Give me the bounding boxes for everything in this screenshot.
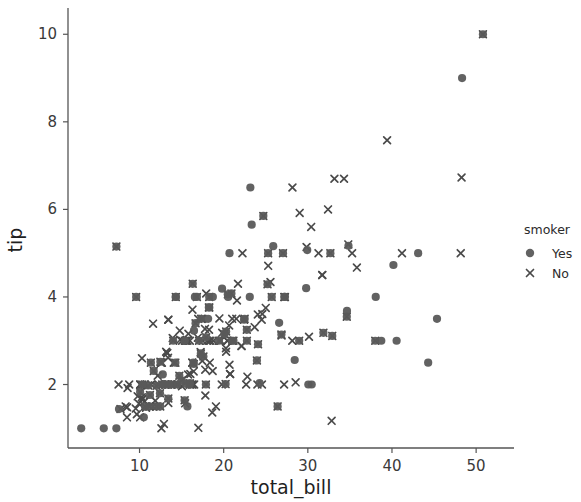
- data-point-no: [251, 324, 258, 331]
- data-point-yes: [189, 280, 197, 288]
- data-point-yes: [204, 315, 212, 323]
- data-point-yes: [291, 356, 299, 364]
- legend: smoker Yes No: [524, 222, 572, 281]
- data-point-yes: [243, 326, 251, 334]
- data-point-yes: [220, 330, 228, 338]
- legend-label-no: No: [552, 266, 569, 281]
- y-axis-title: tip: [4, 228, 26, 253]
- data-point-yes: [372, 293, 380, 301]
- data-point-yes: [240, 316, 248, 324]
- data-point-yes: [479, 30, 487, 38]
- figure-canvas: 1020304050 246810 total_bill tip smoker …: [0, 0, 581, 502]
- data-point-no: [139, 355, 146, 362]
- series-no-markers: [113, 31, 486, 432]
- data-point-yes: [146, 391, 154, 399]
- data-point-no: [399, 250, 406, 257]
- data-point-yes: [377, 337, 385, 345]
- data-point-no: [233, 315, 240, 322]
- data-point-yes: [344, 242, 352, 250]
- data-point-yes: [156, 358, 164, 366]
- data-point-yes: [182, 380, 190, 388]
- data-point-no: [306, 333, 313, 340]
- data-point-yes: [228, 337, 236, 345]
- data-point-yes: [140, 413, 148, 421]
- data-point-yes: [225, 249, 233, 257]
- data-point-yes: [189, 359, 197, 367]
- data-point-yes: [190, 327, 198, 335]
- data-point-no: [325, 206, 332, 213]
- data-point-no: [176, 327, 183, 334]
- data-point-no: [292, 379, 299, 386]
- axis-spines: [68, 8, 514, 448]
- data-point-yes: [304, 380, 312, 388]
- data-point-no: [202, 366, 209, 373]
- data-point-yes: [202, 333, 210, 341]
- data-point-yes: [202, 380, 210, 388]
- data-point-yes: [112, 243, 120, 251]
- x-tick-label: 30: [298, 457, 317, 475]
- data-point-yes: [197, 315, 205, 323]
- data-point-no: [165, 316, 172, 323]
- data-point-no: [289, 337, 296, 344]
- data-point-yes: [191, 293, 199, 301]
- data-point-yes: [150, 367, 158, 375]
- data-point-yes: [224, 293, 232, 301]
- data-point-yes: [132, 293, 140, 301]
- data-point-yes: [414, 249, 422, 257]
- scatter-plot: 1020304050 246810 total_bill tip smoker …: [0, 0, 581, 502]
- data-point-yes: [326, 249, 334, 257]
- data-point-yes: [274, 402, 282, 410]
- data-point-yes: [389, 261, 397, 269]
- data-point-no: [216, 315, 223, 322]
- data-point-yes: [393, 337, 401, 345]
- y-axis-ticks: 246810: [38, 25, 68, 393]
- data-point-yes: [112, 424, 120, 432]
- data-point-yes: [222, 380, 230, 388]
- data-point-yes: [173, 380, 181, 388]
- data-point-yes: [138, 380, 146, 388]
- legend-label-yes: Yes: [551, 246, 572, 261]
- data-point-yes: [275, 319, 283, 327]
- data-point-no: [189, 306, 196, 313]
- data-point-no: [289, 184, 296, 191]
- data-point-yes: [295, 337, 303, 345]
- data-point-no: [353, 264, 360, 271]
- data-point-no: [308, 224, 315, 231]
- y-tick-label: 6: [47, 200, 57, 218]
- data-point-yes: [218, 285, 226, 293]
- data-point-yes: [195, 337, 203, 345]
- data-point-yes: [136, 388, 144, 396]
- data-point-no: [234, 297, 241, 304]
- data-point-yes: [159, 370, 167, 378]
- data-point-no: [238, 343, 245, 350]
- y-tick-label: 8: [47, 113, 57, 131]
- data-point-yes: [243, 337, 251, 345]
- data-point-no: [331, 175, 338, 182]
- data-point-yes: [259, 212, 267, 220]
- data-point-yes: [253, 356, 261, 364]
- data-point-no: [124, 414, 131, 421]
- data-point-yes: [164, 394, 172, 402]
- data-point-no: [244, 373, 251, 380]
- data-point-yes: [248, 221, 256, 229]
- data-point-no: [243, 381, 250, 388]
- data-point-yes: [171, 359, 179, 367]
- data-point-no: [202, 392, 209, 399]
- data-point-no: [115, 381, 122, 388]
- x-axis-title: total_bill: [251, 476, 332, 499]
- legend-title: smoker: [524, 222, 571, 237]
- data-point-yes: [145, 402, 153, 410]
- data-point-yes: [424, 359, 432, 367]
- data-point-no: [239, 250, 246, 257]
- data-point-yes: [246, 293, 254, 301]
- data-point-no: [226, 361, 233, 368]
- data-point-yes: [147, 359, 155, 367]
- data-point-yes: [100, 424, 108, 432]
- x-tick-label: 40: [382, 457, 401, 475]
- series-yes-markers: [77, 30, 487, 432]
- y-tick-label: 10: [38, 25, 57, 43]
- data-point-no: [384, 137, 391, 144]
- data-point-yes: [277, 331, 285, 339]
- data-point-yes: [263, 280, 271, 288]
- data-point-no: [227, 371, 234, 378]
